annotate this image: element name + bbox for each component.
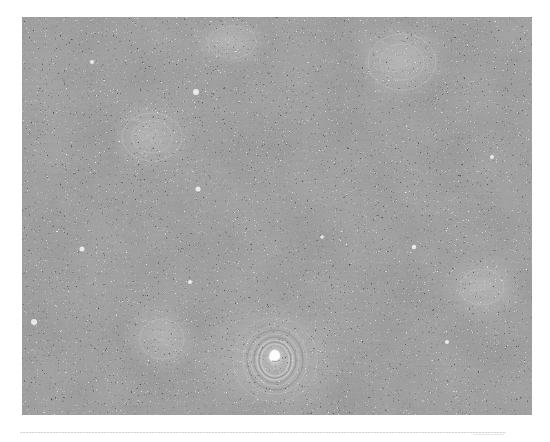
micrograph-image <box>22 17 532 415</box>
caption-divider <box>20 432 506 433</box>
caption-divider-right <box>474 434 504 435</box>
figure-caption-truncated <box>22 437 502 442</box>
micrograph-texture <box>22 17 532 415</box>
